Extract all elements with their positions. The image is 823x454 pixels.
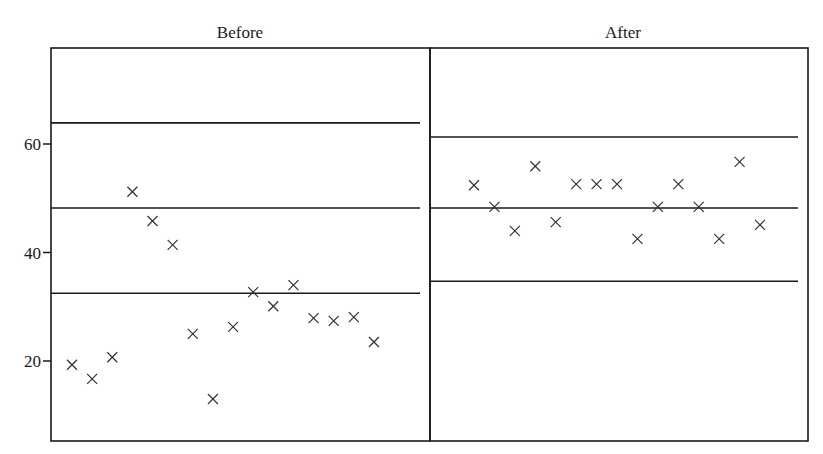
data-point-x-marker [632,234,642,244]
data-point-x-marker [530,161,540,171]
control-chart: 204060 Before After [0,0,823,454]
data-point-x-marker [510,226,520,236]
data-point-x-marker [571,179,581,189]
data-point-x-marker [714,234,724,244]
data-point-x-marker [228,322,238,332]
data-point-x-marker [127,187,137,197]
data-point-x-marker [551,217,561,227]
y-axis: 204060 [24,135,51,371]
data-point-x-marker [329,316,339,326]
data-point-x-marker [369,337,379,347]
data-point-x-marker [168,240,178,250]
panel-title-after: After [605,23,641,42]
data-point-x-marker [248,287,258,297]
panel-before: Before [51,23,430,441]
data-point-x-marker [188,329,198,339]
data-point-x-marker [349,312,359,322]
data-point-x-marker [268,301,278,311]
y-tick-label: 20 [24,352,41,371]
y-tick-label: 40 [24,244,41,263]
panel-title-before: Before [217,23,263,42]
data-point-x-marker [87,374,97,384]
data-point-x-marker [694,202,704,212]
data-point-x-marker [673,179,683,189]
panel-after: After [430,23,808,441]
data-point-x-marker [653,202,663,212]
data-point-x-marker [755,220,765,230]
data-point-x-marker [208,394,218,404]
data-point-x-marker [612,179,622,189]
data-point-x-marker [107,352,117,362]
data-point-x-marker [309,313,319,323]
data-point-x-marker [288,280,298,290]
data-point-x-marker [469,180,479,190]
data-point-x-marker [67,360,77,370]
data-point-x-marker [148,216,158,226]
y-tick-label: 60 [24,135,41,154]
panel-frame [430,48,808,441]
data-point-x-marker [489,202,499,212]
data-point-x-marker [735,157,745,167]
panel-frame [51,48,430,441]
data-point-x-marker [592,179,602,189]
